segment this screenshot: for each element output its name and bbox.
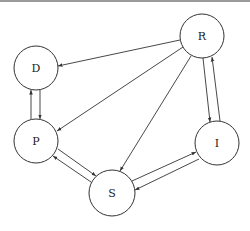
edge-R-P: [57, 47, 183, 131]
node-I: I: [195, 121, 239, 165]
node-D: D: [14, 46, 58, 90]
node-label-P: P: [32, 135, 40, 148]
edges: [31, 40, 220, 190]
node-S: S: [89, 170, 135, 216]
node-label-S: S: [108, 187, 116, 200]
node-label-R: R: [198, 30, 207, 43]
graph-canvas: D R P I S: [0, 0, 250, 231]
edge-R-I: [203, 58, 210, 122]
node-P: P: [14, 119, 58, 163]
node-label-D: D: [32, 62, 41, 75]
node-R: R: [180, 14, 224, 58]
edge-R-D: [58, 40, 180, 66]
edge-S-I: [132, 152, 196, 181]
node-label-I: I: [215, 137, 219, 150]
edge-I-R: [212, 57, 220, 121]
edge-S-P: [53, 156, 91, 182]
edge-R-S: [120, 56, 191, 171]
edge-I-S: [135, 159, 199, 190]
